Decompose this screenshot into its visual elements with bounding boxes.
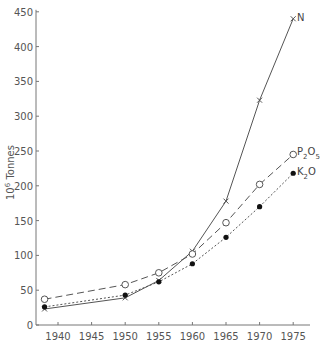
marker-filled-circle — [291, 171, 296, 176]
y-tick-label: 50 — [20, 285, 33, 296]
y-tick-label: 250 — [14, 146, 33, 157]
x-tick-label: 1945 — [79, 331, 104, 342]
x-tick-label: 1940 — [45, 331, 70, 342]
chart: 0501001502002503003504004501940194519501… — [0, 0, 325, 346]
series-line-n — [45, 19, 294, 309]
marker-x — [224, 199, 229, 204]
y-tick-label: 0 — [27, 320, 33, 331]
marker-filled-circle — [42, 304, 47, 309]
y-axis-title: 106 Tonnes — [4, 145, 16, 200]
y-tick-label: 200 — [14, 181, 33, 192]
series-label-p2o5: P2O5 — [297, 146, 320, 161]
series-label-k2o: K2O — [297, 166, 316, 181]
y-tick-label: 400 — [14, 42, 33, 53]
plot-area — [41, 16, 296, 311]
y-tick-label: 450 — [14, 7, 33, 18]
series-line-k2o — [45, 173, 294, 307]
y-tick-label: 150 — [14, 216, 33, 227]
marker-filled-circle — [223, 235, 228, 240]
marker-filled-circle — [257, 204, 262, 209]
x-tick-label: 1960 — [180, 331, 205, 342]
marker-open-circle — [256, 181, 263, 188]
marker-filled-circle — [190, 261, 195, 266]
y-tick-label: 350 — [14, 76, 33, 87]
marker-filled-circle — [156, 279, 161, 284]
y-tick-label: 100 — [14, 250, 33, 261]
marker-open-circle — [189, 251, 196, 258]
x-tick-label: 1955 — [146, 331, 171, 342]
marker-x — [291, 16, 296, 21]
marker-x — [257, 98, 262, 103]
x-tick-label: 1975 — [280, 331, 305, 342]
y-tick-label: 300 — [14, 111, 33, 122]
x-tick-label: 1950 — [112, 331, 137, 342]
marker-open-circle — [41, 296, 48, 303]
marker-open-circle — [122, 281, 129, 288]
marker-open-circle — [223, 219, 230, 226]
marker-filled-circle — [123, 292, 128, 297]
x-tick-label: 1970 — [247, 331, 272, 342]
marker-open-circle — [156, 270, 163, 277]
series-label-n: N — [297, 12, 304, 23]
series-line-p2o5 — [45, 154, 294, 299]
marker-open-circle — [290, 151, 297, 158]
x-tick-label: 1965 — [213, 331, 238, 342]
axes: 0501001502002503003504004501940194519501… — [14, 7, 310, 342]
